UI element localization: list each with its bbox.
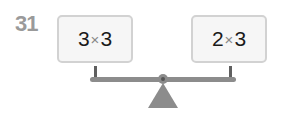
left-operand-a: 3	[78, 27, 90, 51]
right-operand-a: 2	[212, 27, 224, 51]
pivot-dot	[161, 77, 165, 81]
fulcrum-icon	[148, 83, 178, 108]
right-operand-b: 3	[234, 27, 246, 51]
multiply-sign: ×	[91, 31, 100, 48]
left-expression-card: 3 × 3	[57, 15, 133, 63]
multiply-sign: ×	[225, 31, 234, 48]
right-expression-card: 2 × 3	[191, 15, 267, 63]
left-operand-b: 3	[100, 27, 112, 51]
question-number: 31	[15, 11, 37, 37]
